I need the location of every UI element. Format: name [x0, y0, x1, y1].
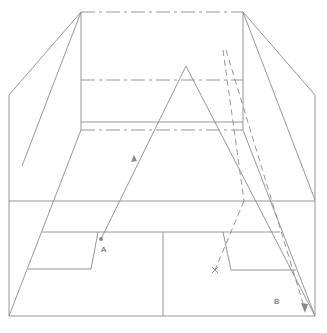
arrow-head-icon: [301, 303, 308, 313]
label-b: B: [274, 297, 279, 306]
arrow-head-icon: [131, 155, 137, 162]
right-step: [163, 232, 296, 270]
floor: [9, 201, 315, 316]
back-wall: [81, 12, 243, 130]
label-a: A: [101, 245, 106, 254]
triangle-rays: [101, 66, 315, 316]
cross-mark-icon: [212, 267, 218, 273]
left-wall: [9, 12, 81, 316]
left-step: [28, 232, 163, 269]
point-a: [99, 237, 103, 241]
room-diagram: [0, 0, 327, 333]
